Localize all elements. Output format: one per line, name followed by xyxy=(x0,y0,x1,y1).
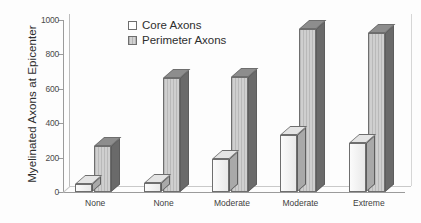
x-axis-label-0: None xyxy=(85,198,105,208)
y-axis-tick-label: 800 xyxy=(25,49,59,59)
y-axis-back-line xyxy=(69,14,70,186)
plot-right-edge xyxy=(411,14,412,186)
legend-item-core-axons: Core Axons xyxy=(128,18,226,33)
bar-side-face xyxy=(316,22,325,192)
x-axis-label-1: None xyxy=(153,198,173,208)
x-axis-line xyxy=(63,192,405,193)
legend-label-core-axons: Core Axons xyxy=(142,18,201,33)
bar-side-face xyxy=(180,70,189,192)
legend-item-perimeter-axons: Perimeter Axons xyxy=(128,33,226,48)
bar-chart-figure: Myelinated Axons at Epicenter 0200400600… xyxy=(0,0,421,223)
y-axis-line xyxy=(63,20,64,192)
bar-core-axons xyxy=(144,183,161,192)
bar-front-face xyxy=(144,183,161,192)
bar-front-face xyxy=(349,143,366,192)
y-axis-tick-label: 200 xyxy=(25,153,59,163)
bar-front-face xyxy=(212,159,229,192)
bar-front-face xyxy=(280,135,297,192)
bar-core-axons xyxy=(212,159,229,192)
x-axis-label-2: Moderate xyxy=(214,198,250,208)
plot-area: 02004006008001000 NoneNoneModerateModera… xyxy=(63,20,405,192)
chart-legend: Core Axons Perimeter Axons xyxy=(128,18,226,48)
bar-side-face xyxy=(385,25,394,192)
bar-core-axons xyxy=(75,184,92,192)
bar-core-axons xyxy=(280,135,297,192)
y-axis-tick-label: 0 xyxy=(25,187,59,197)
x-axis-label-4: Extreme xyxy=(353,198,385,208)
y-axis-title: Myelinated Axons at Epicenter xyxy=(26,14,38,194)
legend-label-perimeter-axons: Perimeter Axons xyxy=(142,33,226,48)
y-axis-tick-label: 600 xyxy=(25,84,59,94)
bar-side-face xyxy=(111,138,120,192)
gray-square-icon xyxy=(128,36,137,45)
bar-front-face xyxy=(75,184,92,192)
bar-side-face xyxy=(248,69,257,192)
y-axis-tick-label: 400 xyxy=(25,118,59,128)
bar-side-face xyxy=(366,135,375,192)
bar-side-face xyxy=(297,127,306,192)
y-axis-tick-label: 1000 xyxy=(25,15,59,25)
white-square-icon xyxy=(128,21,137,30)
x-axis-label-3: Moderate xyxy=(282,198,318,208)
bar-core-axons xyxy=(349,143,366,192)
